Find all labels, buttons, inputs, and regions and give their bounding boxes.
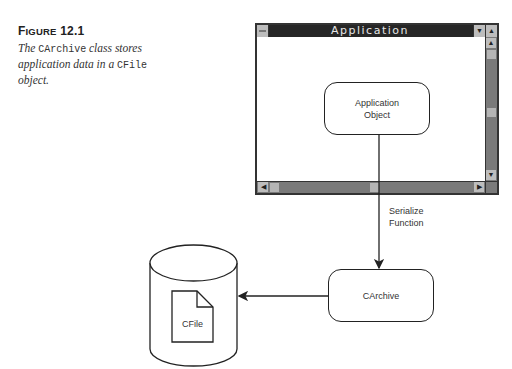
node-label: Object: [355, 109, 399, 121]
diagram-connectors: [0, 0, 512, 369]
node-label: Application: [355, 97, 399, 109]
arrow-label-line: Serialize: [389, 205, 424, 217]
serialize-function-label: Serialize Function: [389, 205, 424, 229]
cfile-label: CFile: [172, 319, 213, 329]
application-object-node: Application Object: [324, 82, 430, 135]
carchive-node: CArchive: [328, 269, 434, 322]
arrow-label-line: Function: [389, 217, 424, 229]
node-label: CArchive: [363, 290, 400, 302]
